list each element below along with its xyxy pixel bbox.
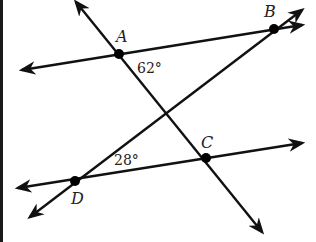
angle-label-A: 62° [137, 60, 162, 76]
label-A: A [114, 27, 128, 46]
label-C: C [201, 133, 213, 152]
geometry-diagram: A B C D 62° 28° [0, 0, 316, 242]
point-C [201, 153, 211, 163]
label-D: D [70, 189, 84, 208]
label-B: B [263, 2, 276, 21]
line-DC [18, 143, 302, 188]
point-A [114, 49, 124, 59]
line-DB [30, 10, 302, 217]
point-D [70, 176, 80, 186]
line-AB [22, 25, 302, 70]
angle-label-D: 28° [114, 152, 139, 168]
point-B [269, 24, 279, 34]
diagram-svg: A B C D 62° 28° [0, 0, 316, 242]
